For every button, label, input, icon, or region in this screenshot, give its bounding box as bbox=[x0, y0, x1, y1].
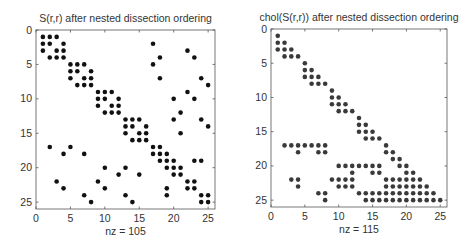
nonzero-marker bbox=[357, 129, 362, 134]
nonzero-marker bbox=[61, 152, 66, 157]
y-tick-label: 25 bbox=[20, 196, 32, 208]
nonzero-marker bbox=[289, 54, 294, 59]
x-tick-label: 20 bbox=[168, 212, 180, 224]
figure-canvas: S(r,r) after nested dissection ordering … bbox=[0, 0, 467, 243]
nonzero-marker bbox=[424, 184, 429, 189]
nonzero-marker bbox=[289, 177, 294, 182]
nonzero-marker bbox=[316, 75, 321, 80]
nonzero-marker bbox=[165, 152, 170, 157]
nonzero-marker bbox=[336, 177, 341, 182]
y-tick-label: 0 bbox=[26, 24, 32, 36]
nonzero-marker bbox=[89, 69, 94, 74]
nonzero-marker bbox=[171, 97, 176, 102]
nonzero-marker bbox=[336, 164, 341, 169]
nonzero-marker bbox=[363, 198, 368, 203]
nonzero-marker bbox=[158, 159, 163, 164]
y-tick-label: 20 bbox=[20, 161, 32, 173]
nonzero-marker bbox=[397, 164, 402, 169]
nonzero-marker bbox=[82, 193, 87, 198]
nonzero-marker bbox=[404, 170, 409, 175]
nonzero-marker bbox=[404, 184, 409, 189]
nonzero-marker bbox=[316, 191, 321, 196]
nonzero-marker bbox=[123, 165, 128, 170]
nonzero-marker bbox=[165, 193, 170, 198]
nonzero-marker bbox=[47, 41, 52, 46]
nonzero-marker bbox=[109, 103, 114, 108]
nonzero-marker bbox=[61, 48, 66, 53]
nonzero-marker bbox=[199, 200, 204, 205]
nonzero-marker bbox=[296, 177, 301, 182]
nonzero-marker bbox=[363, 164, 368, 169]
nonzero-marker bbox=[199, 193, 204, 198]
y-tick-label: 25 bbox=[255, 194, 267, 206]
nonzero-marker bbox=[336, 102, 341, 107]
nonzero-marker bbox=[404, 191, 409, 196]
nonzero-marker bbox=[363, 123, 368, 128]
nonzero-marker bbox=[309, 75, 314, 80]
nonzero-marker bbox=[41, 35, 46, 40]
nonzero-marker bbox=[370, 136, 375, 141]
x-tick-label: 20 bbox=[401, 210, 413, 222]
nonzero-marker bbox=[54, 55, 59, 60]
nonzero-marker bbox=[47, 55, 52, 60]
nonzero-marker bbox=[185, 179, 190, 184]
x-tick-label: 5 bbox=[302, 210, 308, 222]
nonzero-marker bbox=[330, 88, 335, 93]
nonzero-marker bbox=[384, 198, 389, 203]
nonzero-marker bbox=[192, 55, 197, 60]
nonzero-marker bbox=[158, 76, 163, 81]
nonzero-markers bbox=[41, 35, 211, 205]
nonzero-marker bbox=[330, 102, 335, 107]
nonzero-marker bbox=[185, 186, 190, 191]
nonzero-marker bbox=[192, 179, 197, 184]
nonzero-marker bbox=[411, 184, 416, 189]
nonzero-marker bbox=[178, 110, 183, 115]
nonzero-marker bbox=[89, 83, 94, 88]
nonzero-marker bbox=[357, 123, 362, 128]
nonzero-marker bbox=[137, 117, 142, 122]
nonzero-marker bbox=[377, 191, 382, 196]
nonzero-marker bbox=[411, 198, 416, 203]
x-tick-label: 0 bbox=[268, 210, 274, 222]
nonzero-marker bbox=[130, 138, 135, 143]
nonzero-marker bbox=[89, 76, 94, 81]
nonzero-marker bbox=[103, 90, 108, 95]
nonzero-marker bbox=[330, 95, 335, 100]
nonzero-marker bbox=[275, 34, 280, 39]
nonzero-marker bbox=[151, 41, 156, 46]
nonzero-marker bbox=[303, 68, 308, 73]
nonzero-marker bbox=[171, 165, 176, 170]
nonzero-marker bbox=[438, 198, 443, 203]
nonzero-marker bbox=[391, 150, 396, 155]
nonzero-marker bbox=[391, 157, 396, 162]
y-tick-label: 10 bbox=[255, 91, 267, 103]
nonzero-marker bbox=[192, 159, 197, 164]
axes: 05101520250510152025 bbox=[20, 24, 215, 225]
nonzero-marker bbox=[336, 95, 341, 100]
nonzero-marker bbox=[316, 150, 321, 155]
nonzero-marker bbox=[192, 186, 197, 191]
nonzero-marker bbox=[206, 83, 211, 88]
plot-title: chol(S(r,r)) after nested dissection ord… bbox=[259, 11, 458, 23]
nonzero-marker bbox=[343, 184, 348, 189]
nonzero-marker bbox=[206, 200, 211, 205]
nonzero-marker bbox=[330, 177, 335, 182]
nonzero-marker bbox=[116, 172, 121, 177]
nonzero-marker bbox=[418, 198, 423, 203]
nonzero-marker bbox=[82, 62, 87, 67]
nonzero-marker bbox=[350, 164, 355, 169]
nonzero-marker bbox=[418, 184, 423, 189]
nonzero-marker bbox=[357, 164, 362, 169]
nonzero-marker bbox=[309, 143, 314, 148]
nonzero-marker bbox=[165, 165, 170, 170]
nonzero-marker bbox=[116, 103, 121, 108]
nonzero-marker bbox=[424, 198, 429, 203]
nonzero-marker bbox=[296, 54, 301, 59]
nonzero-marker bbox=[137, 138, 142, 143]
nonzero-marker bbox=[116, 110, 121, 115]
nonzero-marker bbox=[185, 90, 190, 95]
nonzero-marker bbox=[303, 61, 308, 66]
nonzero-marker bbox=[137, 172, 142, 177]
nonzero-marker bbox=[275, 47, 280, 52]
nonzero-marker bbox=[350, 170, 355, 175]
